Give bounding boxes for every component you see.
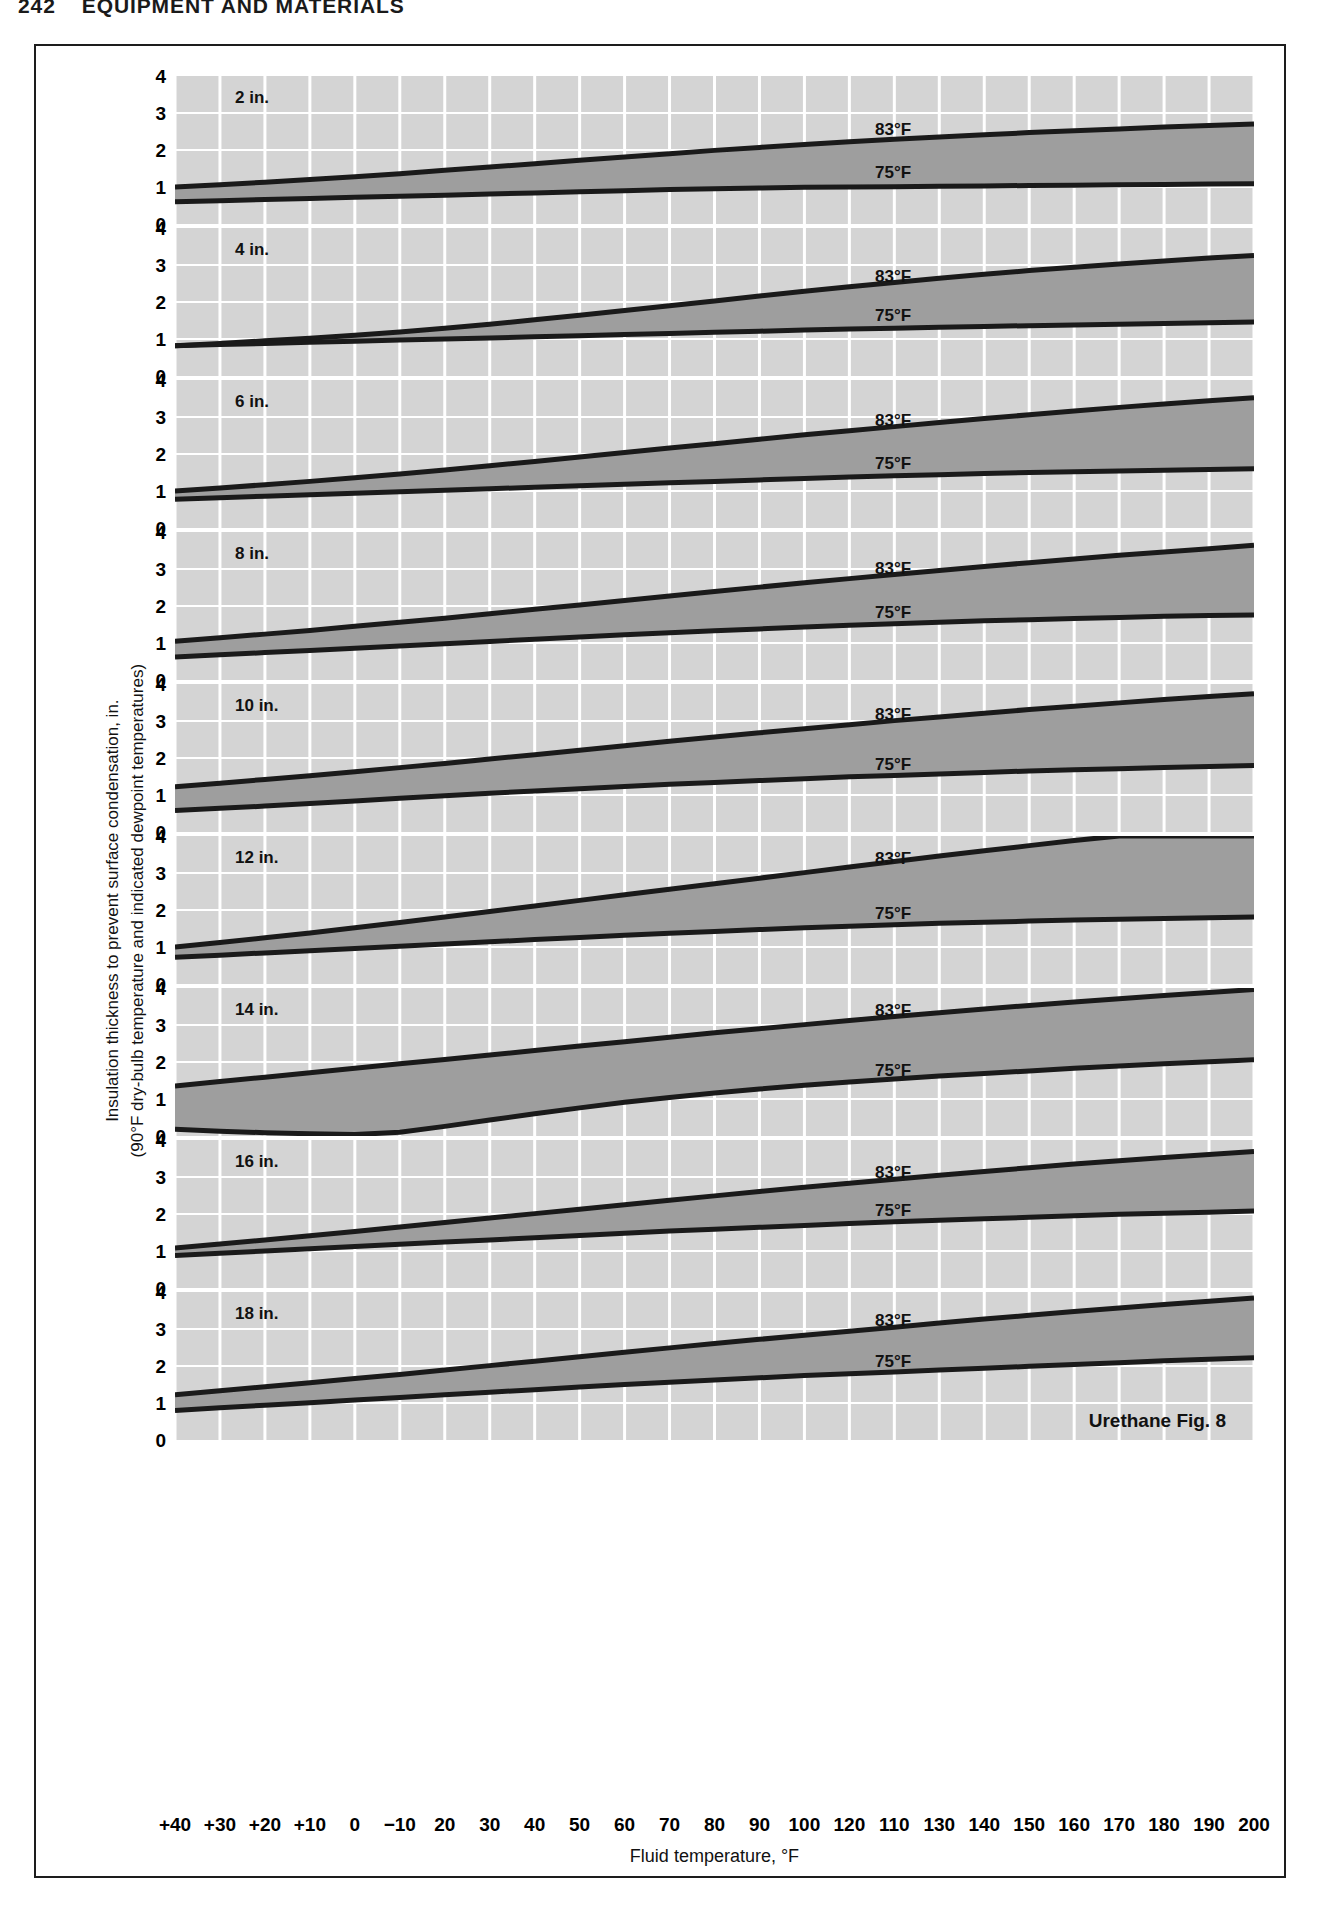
y-tick-label: 2 [155,1053,166,1072]
plot-area [175,836,1254,984]
y-tick-label: 0 [155,1431,166,1450]
y-tick-label: 2 [155,141,166,160]
curve-label-83f: 83°F [875,411,911,431]
chart-panel: 4321016 in.83°F75°F [175,1140,1254,1288]
chart-panel: 432102 in.83°F75°F [175,76,1254,224]
curve-label-75f: 75°F [875,1061,911,1081]
figure-caption: Urethane Fig. 8 [1089,1410,1226,1432]
y-tick-label: 3 [155,1016,166,1035]
x-tick-label: +20 [249,1814,281,1836]
y-tick-label: 2 [155,445,166,464]
x-tick-label: 180 [1148,1814,1180,1836]
y-tick-label: 4 [155,979,166,998]
y-tick-label: 3 [155,408,166,427]
x-tick-label: 140 [968,1814,1000,1836]
plot-area [175,684,1254,832]
y-tick-label: 1 [155,634,166,653]
panel-size-label: 4 in. [235,240,269,260]
chart-panel: 4321010 in.83°F75°F [175,684,1254,832]
y-tick-label: 1 [155,330,166,349]
x-tick-label: 40 [524,1814,545,1836]
x-tick-label: 60 [614,1814,635,1836]
y-tick-label: 4 [155,1131,166,1150]
chart-panel: 432108 in.83°F75°F [175,532,1254,680]
x-tick-label: 80 [704,1814,725,1836]
panel-size-label: 12 in. [235,848,278,868]
plot-area [175,76,1254,224]
y-tick-label: 1 [155,178,166,197]
x-tick-label: 120 [834,1814,866,1836]
y-tick-label: 4 [155,675,166,694]
y-tick-label: 3 [155,560,166,579]
x-tick-label: 50 [569,1814,590,1836]
panel-stack: 432102 in.83°F75°F432104 in.83°F75°F4321… [175,76,1254,1806]
curve-label-75f: 75°F [875,163,911,183]
curve-label-75f: 75°F [875,454,911,474]
x-tick-label: +30 [204,1814,236,1836]
page-number: 242 [18,0,56,17]
y-tick-label: 4 [155,1283,166,1302]
panel-size-label: 6 in. [235,392,269,412]
y-tick-label: 1 [155,1242,166,1261]
plot-area [175,1140,1254,1288]
x-axis-ticks: +40+30+20+100−10203040506070809010012011… [175,1814,1254,1840]
y-tick-label: 1 [155,482,166,501]
curve-label-75f: 75°F [875,904,911,924]
y-tick-label: 1 [155,786,166,805]
x-tick-label: +10 [294,1814,326,1836]
running-head: 242EQUIPMENT AND MATERIALS [18,0,405,18]
panel-size-label: 18 in. [235,1304,278,1324]
curve-label-75f: 75°F [875,603,911,623]
curve-label-83f: 83°F [875,559,911,579]
x-tick-label: 150 [1013,1814,1045,1836]
plot-area [175,228,1254,376]
y-tick-label: 1 [155,1090,166,1109]
y-axis-title: Insulation thickness to prevent surface … [101,531,150,1291]
plot-area [175,532,1254,680]
x-tick-label: 100 [789,1814,821,1836]
y-tick-label: 4 [155,67,166,86]
panel-size-label: 8 in. [235,544,269,564]
y-tick-label: 3 [155,864,166,883]
x-tick-label: 160 [1058,1814,1090,1836]
panel-size-label: 10 in. [235,696,278,716]
y-tick-label: 2 [155,901,166,920]
panel-size-label: 16 in. [235,1152,278,1172]
running-head-title: EQUIPMENT AND MATERIALS [82,0,405,17]
x-tick-label: 170 [1103,1814,1135,1836]
curve-label-83f: 83°F [875,705,911,725]
x-tick-label: 190 [1193,1814,1225,1836]
chart-panel: 432104 in.83°F75°F [175,228,1254,376]
y-tick-label: 4 [155,523,166,542]
chart-panel: 4321012 in.83°F75°F [175,836,1254,984]
curve-label-75f: 75°F [875,306,911,326]
x-tick-label: 130 [923,1814,955,1836]
curve-label-83f: 83°F [875,1311,911,1331]
y-tick-label: 2 [155,1357,166,1376]
x-tick-label: +40 [159,1814,191,1836]
curve-label-75f: 75°F [875,1352,911,1372]
y-tick-label: 4 [155,827,166,846]
panel-size-label: 14 in. [235,1000,278,1020]
plot-area [175,988,1254,1136]
curve-label-75f: 75°F [875,755,911,775]
x-tick-label: 70 [659,1814,680,1836]
y-tick-label: 3 [155,256,166,275]
y-axis-title-line2: (90°F dry-bulb temperature and indicated… [126,531,151,1291]
x-tick-label: 110 [879,1814,910,1836]
y-tick-label: 3 [155,104,166,123]
x-axis-title: Fluid temperature, °F [175,1846,1254,1867]
x-tick-label: 90 [749,1814,770,1836]
y-tick-label: 1 [155,938,166,957]
curve-label-75f: 75°F [875,1201,911,1221]
curve-label-83f: 83°F [875,267,911,287]
x-tick-label: 30 [479,1814,500,1836]
y-axis-title-line1: Insulation thickness to prevent surface … [103,699,122,1121]
x-tick-label: 20 [434,1814,455,1836]
x-tick-label: −10 [384,1814,416,1836]
curve-label-83f: 83°F [875,1163,911,1183]
chart-panel: 432106 in.83°F75°F [175,380,1254,528]
y-tick-label: 3 [155,1168,166,1187]
x-tick-label: 200 [1238,1814,1270,1836]
x-tick-label: 0 [350,1814,361,1836]
